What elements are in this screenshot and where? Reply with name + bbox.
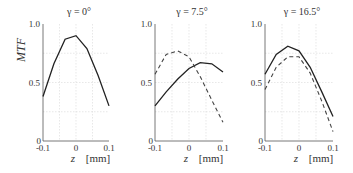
y-tick-label: 1.0 [141, 19, 153, 29]
x-tick-label: -0.1 [148, 143, 162, 153]
x-tick-label: -0.1 [258, 143, 272, 153]
x-axis-label-unit: [mm] [309, 152, 333, 164]
y-axis-label: MTF [14, 37, 28, 63]
y-tick-label: 0.5 [251, 78, 263, 88]
y-tick-label: 0.5 [141, 78, 153, 88]
x-axis-label-unit: [mm] [199, 152, 223, 164]
x-tick-label: -0.1 [36, 143, 50, 153]
x-axis-label-var: z [70, 152, 76, 164]
mtf-chart-figure: 00.51.0-0.100.1γ = 0°z[mm]MTF00.51.0-0.1… [0, 0, 353, 173]
x-axis-label-unit: [mm] [86, 152, 110, 164]
y-tick-label: 1.0 [251, 19, 263, 29]
x-axis-label-var: z [183, 152, 189, 164]
x-axis-label-var: z [293, 152, 299, 164]
panel-title: γ = 0° [66, 6, 91, 17]
panel-title: γ = 7.5° [175, 6, 208, 17]
panel-title: γ = 16.5° [283, 6, 321, 17]
y-tick-label: 1.0 [29, 19, 41, 29]
y-tick-label: 0.5 [29, 78, 41, 88]
